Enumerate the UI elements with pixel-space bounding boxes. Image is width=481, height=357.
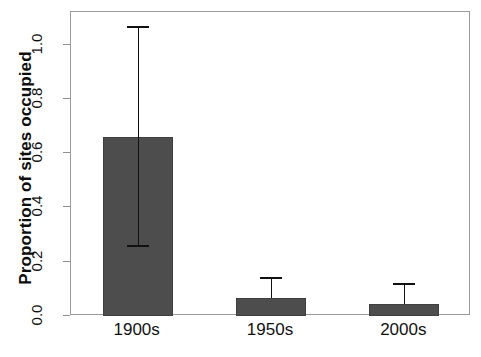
y-tick-mark (63, 152, 70, 153)
y-tick-label: 0.4 (28, 186, 44, 226)
bar-chart-figure: Proportion of sites occupied 0.00.20.40.… (0, 0, 481, 357)
error-bar-line (138, 26, 139, 246)
y-tick-label: 1.0 (28, 24, 44, 64)
bar (236, 298, 306, 316)
x-tick-label: 1900s (82, 320, 192, 340)
x-tick-label: 1950s (215, 320, 325, 340)
y-tick-label: 0.8 (28, 78, 44, 118)
y-tick-mark (63, 44, 70, 45)
y-tick-mark (63, 98, 70, 99)
error-bar-line (271, 277, 272, 298)
y-tick-mark (63, 261, 70, 262)
y-tick-mark (63, 206, 70, 207)
y-tick-mark (63, 315, 70, 316)
y-tick-label: 0.0 (28, 295, 44, 335)
error-bar-cap-upper (127, 26, 149, 28)
plot-area (70, 11, 470, 315)
y-tick-label: 0.2 (28, 241, 44, 281)
bar (369, 304, 439, 316)
error-bar-cap-upper (393, 283, 415, 285)
error-bar-cap-upper (260, 277, 282, 279)
x-tick-label: 2000s (348, 320, 458, 340)
error-bar-cap-lower (127, 245, 149, 247)
error-bar-line (404, 283, 405, 304)
y-tick-label: 0.6 (28, 132, 44, 172)
